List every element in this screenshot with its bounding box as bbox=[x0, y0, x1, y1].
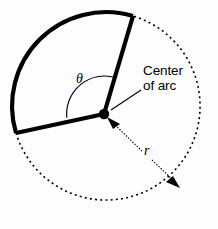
radius-arrow-shaft-outer bbox=[152, 160, 174, 181]
circular-sector-diagram: Center of arc θ r bbox=[0, 0, 218, 229]
theta-label: θ bbox=[76, 71, 83, 87]
filled-dot-icon bbox=[99, 109, 109, 119]
radius-arrow-shaft-inner bbox=[113, 123, 143, 152]
diagram-canvas bbox=[0, 0, 218, 229]
leader-line-center-label bbox=[111, 90, 141, 110]
center-of-arc-label: Center of arc bbox=[143, 63, 183, 93]
arrowhead-icon-outer bbox=[166, 176, 180, 188]
dashed-arc bbox=[16, 16, 200, 200]
radius-line-lower bbox=[16, 114, 104, 133]
radius-line-upper bbox=[104, 16, 133, 114]
radius-label: r bbox=[144, 143, 149, 159]
